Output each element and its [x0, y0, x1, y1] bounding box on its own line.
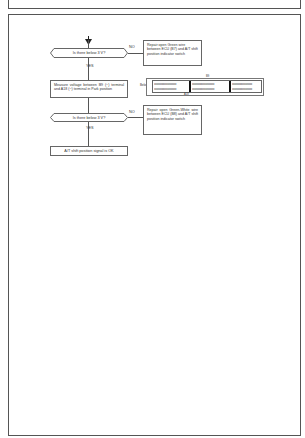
decision-2: Is there below 3 V? [50, 113, 128, 122]
connector-divider [189, 81, 191, 92]
decision-1-yes-label: YES [86, 64, 94, 68]
connector-top-label: B9 [206, 75, 209, 78]
decision-1-no-action: Repair open Green wire between ECU (B7) … [143, 40, 202, 66]
decision-1-no-label: NO [129, 45, 135, 49]
connector-bottom-label: A18 [184, 93, 189, 96]
connector-body: oooooooooo oooooooooo oooooooooo ooooooo… [152, 80, 262, 93]
decision-1-text: Is there below 3 V? [50, 48, 128, 58]
connector-diagram: Below oooooooooo oooooooooo oooooooooo o… [140, 76, 265, 98]
flow-line [128, 53, 143, 54]
flow-line [88, 40, 89, 48]
decision-1: Is there below 3 V? [50, 48, 128, 58]
decision-2-no-action: Repair open Green-White wire between ECU… [143, 105, 202, 135]
decision-2-yes-label: YES [86, 126, 94, 130]
flow-line [88, 98, 89, 113]
decision-2-no-label: NO [129, 110, 135, 114]
connector-segment-2: oooooooooo oooooooooo [192, 82, 228, 91]
flow-line [128, 117, 143, 118]
header-box [8, 0, 301, 9]
result-text: A/T shift position signal is OK [64, 149, 113, 153]
flow-line [88, 58, 89, 80]
connector-divider [229, 81, 231, 92]
process-1-text: Measure voltage between B9 (−) terminal … [54, 83, 124, 91]
process-1: Measure voltage between B9 (−) terminal … [50, 80, 128, 98]
decision-2-no-action-text: Repair open Green-White wire between ECU… [147, 108, 198, 121]
connector-segment-3: ooooooooo ooooooooo [232, 82, 262, 91]
decision-1-no-action-text: Repair open Green wire between ECU (B7) … [147, 43, 198, 56]
decision-2-text: Is there below 3 V? [50, 113, 128, 122]
result-box: A/T shift position signal is OK [50, 146, 128, 156]
connector-segment-1: oooooooooo oooooooooo [154, 82, 188, 91]
